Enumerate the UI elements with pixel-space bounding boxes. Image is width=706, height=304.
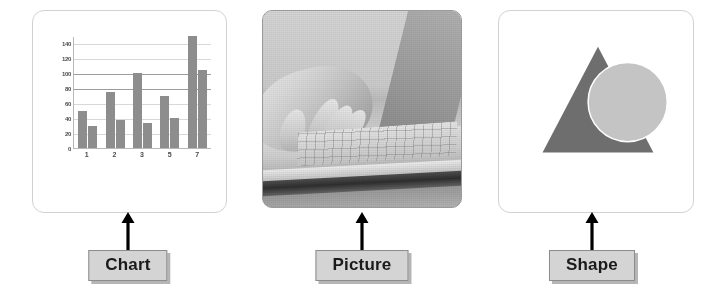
y-axis-tick: 100: [62, 71, 71, 77]
bar-chart: 020406080100120140 12357: [49, 37, 214, 167]
chart-plot-area: [73, 37, 211, 149]
shape-panel[interactable]: [498, 10, 694, 213]
bar: [133, 73, 142, 148]
shape-column: Shape: [482, 0, 702, 304]
chart-panel[interactable]: 020406080100120140 12357: [32, 10, 227, 213]
y-axis-labels: 020406080100120140: [49, 37, 71, 149]
y-axis-tick: 120: [62, 56, 71, 62]
shape-graphic: [499, 11, 693, 212]
arrow-up-icon: [355, 212, 369, 254]
slide-canvas: 020406080100120140 12357 Chart: [0, 0, 706, 304]
bar: [116, 120, 125, 148]
bar: [188, 36, 197, 148]
bar: [160, 96, 169, 148]
bar-group: [160, 37, 179, 148]
arrow-up-icon: [585, 212, 599, 254]
bar-groups: [74, 37, 211, 148]
circle-shape: [588, 62, 667, 141]
y-axis-tick: 20: [65, 131, 71, 137]
x-axis-tick: 1: [77, 151, 96, 158]
x-axis-tick: 5: [160, 151, 179, 158]
x-axis-tick: 3: [132, 151, 151, 158]
y-axis-tick: 140: [62, 41, 71, 47]
picture-column: Picture: [252, 0, 472, 304]
label-box-chart[interactable]: Chart: [88, 250, 167, 281]
y-axis-tick: 40: [65, 116, 71, 122]
y-axis-tick: 0: [68, 146, 71, 152]
bar-group: [188, 37, 207, 148]
photo-grain-overlay: [263, 11, 461, 207]
chart-column: 020406080100120140 12357 Chart: [18, 0, 238, 304]
bar: [170, 118, 179, 148]
label-box-picture[interactable]: Picture: [315, 250, 408, 281]
bar: [78, 111, 87, 148]
y-axis-tick: 80: [65, 86, 71, 92]
arrow-up-icon: [121, 212, 135, 254]
x-axis-tick: 7: [188, 151, 207, 158]
picture-panel[interactable]: [262, 10, 462, 208]
bar: [143, 123, 152, 148]
bar-group: [78, 37, 97, 148]
bar: [198, 70, 207, 148]
y-axis-tick: 60: [65, 101, 71, 107]
laptop-typing-photo: [263, 11, 461, 207]
bar-group: [133, 37, 152, 148]
bar: [88, 126, 97, 148]
bar-group: [106, 37, 125, 148]
x-axis-labels: 12357: [73, 151, 211, 158]
x-axis-tick: 2: [105, 151, 124, 158]
bar: [106, 92, 115, 148]
label-box-shape[interactable]: Shape: [549, 250, 635, 281]
